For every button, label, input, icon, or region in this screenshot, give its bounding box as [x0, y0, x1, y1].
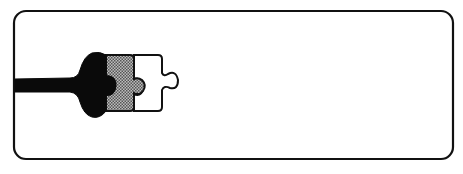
puzzle-illustration — [0, 0, 463, 174]
